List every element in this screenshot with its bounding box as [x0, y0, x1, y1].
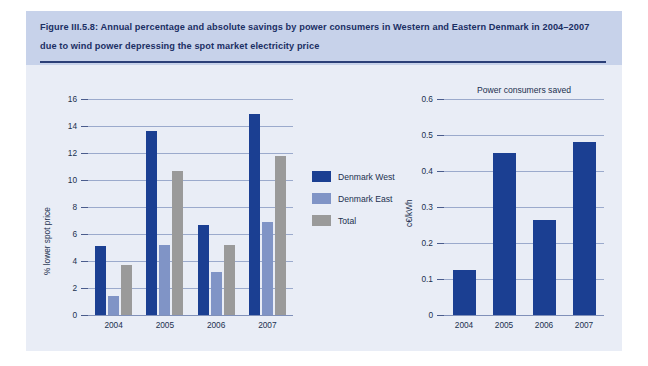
chart-power-consumers-saved: Power consumers saved 00.10.20.30.40.50.… — [444, 99, 604, 315]
bar-2004-denmark-west — [95, 246, 106, 315]
y-axis-tick-mark — [437, 171, 444, 172]
y-axis-label-percent: % lower spot price — [42, 207, 52, 275]
plot-area-percent-savings: 02468101214162004200520062007 — [88, 99, 293, 315]
bar-2006-denmark-west — [198, 225, 209, 315]
y-axis-tick-mark — [437, 279, 444, 280]
y-axis-tick-mark — [81, 288, 88, 289]
x-axis-tick-label: 2004 — [88, 320, 139, 330]
y-axis-tick-mark — [437, 207, 444, 208]
bar-2007-power-consumers-saved — [573, 142, 596, 315]
y-axis-tick-mark — [81, 207, 88, 208]
gridline — [88, 126, 293, 127]
gridline — [88, 180, 293, 181]
y-axis-tick-label: 0 — [428, 310, 433, 320]
chart-percent-savings: 02468101214162004200520062007 % lower sp… — [88, 99, 293, 315]
y-axis-tick-label: 0.5 — [421, 130, 433, 140]
bar-2004-total — [121, 265, 132, 315]
legend-item-west: Denmark West — [312, 168, 395, 185]
x-axis-tick-label: 2004 — [444, 320, 484, 330]
y-axis-tick-mark — [81, 234, 88, 235]
figure-panel: Figure III.5.8: Annual percentage and ab… — [26, 11, 622, 351]
y-axis-tick-label: 0.1 — [421, 274, 433, 284]
legend-label: Denmark West — [338, 172, 395, 182]
y-axis-tick-mark — [81, 261, 88, 262]
gridline — [444, 99, 604, 100]
legend-swatch-east-icon — [312, 193, 331, 204]
y-axis-tick-label: 0.4 — [421, 166, 433, 176]
gridline — [88, 207, 293, 208]
y-axis-tick-label: 14 — [68, 121, 77, 131]
figure-title: Figure III.5.8: Annual percentage and ab… — [40, 18, 606, 56]
legend-swatch-west-icon — [312, 171, 331, 182]
bar-2007-denmark-east — [262, 222, 273, 315]
bar-2005-total — [172, 171, 183, 315]
y-axis-tick-mark — [81, 180, 88, 181]
x-axis-tick-label: 2005 — [484, 320, 524, 330]
chart-legend: Denmark WestDenmark EastTotal — [312, 168, 395, 234]
y-axis-tick-label: 10 — [68, 175, 77, 185]
bar-2006-power-consumers-saved — [533, 220, 556, 315]
bar-2005-denmark-east — [159, 245, 170, 315]
y-axis-tick-mark — [437, 99, 444, 100]
bar-2005-power-consumers-saved — [493, 153, 516, 315]
gridline — [444, 135, 604, 136]
y-axis-tick-label: 0.6 — [421, 94, 433, 104]
x-axis-tick-label: 2007 — [242, 320, 293, 330]
gridline — [88, 153, 293, 154]
figure-plot-background: 02468101214162004200520062007 % lower sp… — [26, 67, 622, 351]
bar-2006-denmark-east — [211, 272, 222, 315]
bar-2004-power-consumers-saved — [453, 270, 476, 315]
y-axis-tick-label: 8 — [72, 202, 77, 212]
y-axis-tick-mark — [437, 135, 444, 136]
y-axis-tick-label: 0 — [72, 310, 77, 320]
axis-line-x — [444, 315, 604, 316]
legend-swatch-total-icon — [312, 215, 331, 226]
legend-label: Denmark East — [338, 194, 392, 204]
y-axis-tick-label: 4 — [72, 256, 77, 266]
y-axis-label-ckwh: c€/kWh — [404, 199, 414, 227]
bar-2006-total — [224, 245, 235, 315]
legend-item-east: Denmark East — [312, 190, 395, 207]
x-axis-tick-label: 2006 — [191, 320, 242, 330]
y-axis-tick-label: 2 — [72, 283, 77, 293]
y-axis-tick-mark — [437, 243, 444, 244]
chart-title-power-consumers-saved: Power consumers saved — [444, 85, 604, 95]
x-axis-tick-label: 2005 — [139, 320, 190, 330]
y-axis-tick-label: 0.2 — [421, 238, 433, 248]
y-axis-tick-mark — [81, 153, 88, 154]
y-axis-tick-label: 0.3 — [421, 202, 433, 212]
gridline — [88, 99, 293, 100]
y-axis-tick-label: 16 — [68, 94, 77, 104]
x-axis-tick-label: 2007 — [564, 320, 604, 330]
plot-area-power-consumers-saved: 00.10.20.30.40.50.62004200520062007 — [444, 99, 604, 315]
y-axis-tick-label: 12 — [68, 148, 77, 158]
bar-2007-total — [275, 156, 286, 315]
y-axis-tick-mark — [81, 126, 88, 127]
x-axis-tick-label: 2006 — [524, 320, 564, 330]
y-axis-tick-label: 6 — [72, 229, 77, 239]
bar-2007-denmark-west — [249, 114, 260, 315]
bar-2004-denmark-east — [108, 296, 119, 315]
y-axis-tick-mark — [81, 99, 88, 100]
y-axis-tick-mark — [81, 315, 88, 316]
legend-label: Total — [338, 216, 356, 226]
figure-title-rule — [40, 61, 606, 63]
axis-line-x — [88, 315, 293, 316]
legend-item-total: Total — [312, 212, 395, 229]
bar-2005-denmark-west — [146, 131, 157, 315]
y-axis-tick-mark — [437, 315, 444, 316]
